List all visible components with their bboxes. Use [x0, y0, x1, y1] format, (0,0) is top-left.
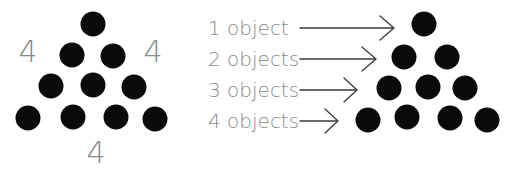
triangular-number-diagram: 4 4 4 1 object 2 objects 3 objects 4 obj… [0, 0, 513, 173]
row-label-1: 1 object [208, 16, 289, 40]
dot [392, 45, 417, 70]
left-triangle [16, 12, 168, 132]
dot [61, 105, 86, 130]
dot [438, 106, 463, 131]
dot [377, 76, 402, 101]
side-label-bottom: 4 [86, 135, 105, 170]
dot [453, 76, 478, 101]
dot [143, 107, 168, 132]
dot [101, 44, 126, 69]
dot [435, 45, 460, 70]
arrow-4-icon [300, 109, 338, 133]
dot [81, 73, 106, 98]
dot [356, 108, 381, 133]
dot [395, 105, 420, 130]
dot [39, 74, 64, 99]
dot [122, 75, 147, 100]
row-label-3: 3 objects [208, 78, 299, 102]
dot [81, 12, 106, 37]
side-label-right: 4 [143, 34, 162, 69]
arrow-3-icon [300, 78, 357, 102]
dot [475, 108, 500, 133]
dot [416, 75, 441, 100]
row-label-4: 4 objects [208, 109, 299, 133]
dot [60, 43, 85, 68]
row-label-2: 2 objects [208, 47, 299, 71]
arrow-1-icon [300, 16, 394, 40]
dot [16, 106, 41, 131]
dot [104, 105, 129, 130]
diagram-canvas: 4 4 4 1 object 2 objects 3 objects 4 obj… [0, 0, 513, 173]
dot [412, 12, 437, 37]
arrow-2-icon [300, 47, 376, 71]
side-label-left: 4 [18, 34, 37, 69]
right-triangle [356, 12, 500, 133]
